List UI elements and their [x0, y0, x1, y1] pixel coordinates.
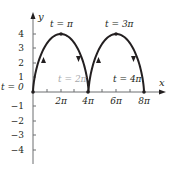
annotation-t-3pi: t = 3π: [105, 19, 135, 29]
y-axis-arrow-icon: [31, 12, 36, 19]
y-tick-label: 3: [18, 43, 24, 53]
x-tick-label: 2π: [54, 96, 68, 106]
annotation-t-2pi: t = 2π: [58, 74, 88, 84]
x-tick-label: 4π: [81, 96, 95, 106]
annotation-t-4pi: t = 4π: [113, 74, 143, 84]
y-tick-label: −2: [11, 116, 24, 126]
y-tick-label: 1: [18, 72, 24, 82]
annotation-t0: t = 0: [1, 82, 24, 92]
direction-arrows: [41, 56, 136, 63]
cycloid-chart: y x 4 3 2 1 −1 −2 −3 −4 2π 4π 6π 8π t = …: [0, 0, 175, 179]
x-axis-label: x: [159, 77, 165, 88]
annotation-t-pi: t = π: [50, 19, 74, 29]
y-tick-label: 4: [18, 29, 24, 39]
y-tick-label: −3: [11, 130, 25, 140]
arrow-up-icon: [96, 57, 101, 63]
y-tick-label: −4: [11, 145, 25, 155]
arrow-up-icon: [41, 57, 46, 63]
arrow-down-icon: [76, 56, 81, 62]
x-tick-label: 6π: [110, 96, 123, 106]
y-tick-label: 2: [18, 58, 24, 68]
arrow-down-icon: [131, 56, 136, 62]
axes: [31, 12, 167, 164]
y-axis-label: y: [37, 11, 44, 22]
x-axis-arrow-icon: [159, 90, 166, 95]
y-tick-label: −1: [11, 101, 24, 111]
x-tick-label: 8π: [138, 96, 151, 106]
